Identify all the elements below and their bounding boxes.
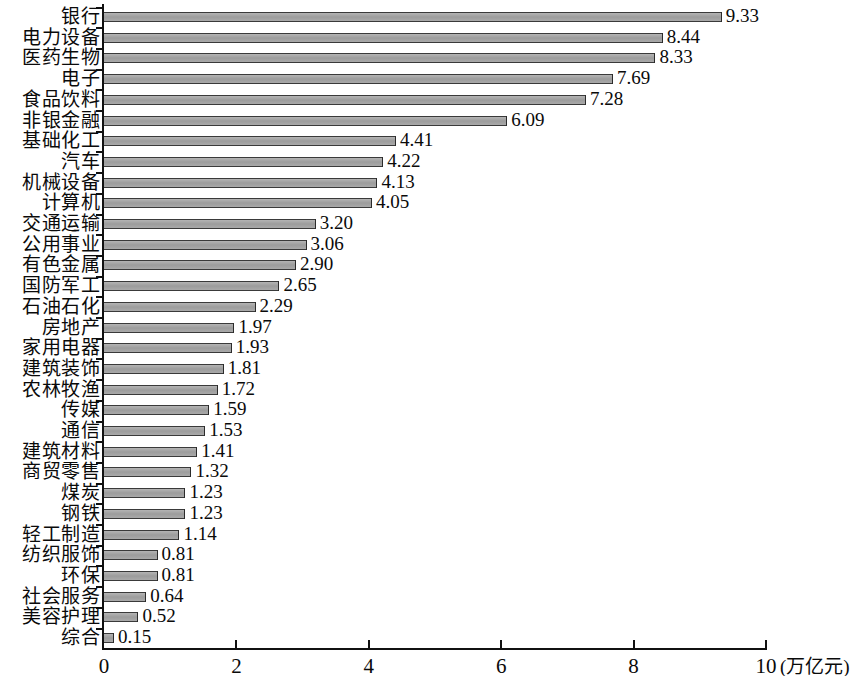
bar-row: 8.33 xyxy=(104,47,868,69)
bar-row: 7.28 xyxy=(104,89,868,111)
bar-value-label: 1.97 xyxy=(238,316,271,338)
bar-value-label: 0.52 xyxy=(142,605,175,627)
bar-value-label: 1.41 xyxy=(201,440,234,462)
bar xyxy=(104,592,146,602)
bar xyxy=(104,198,372,208)
bar-value-label: 3.20 xyxy=(320,212,353,234)
bar-row: 1.32 xyxy=(104,461,868,483)
bar-row: 4.05 xyxy=(104,192,868,214)
bar xyxy=(104,33,663,43)
category-label: 轻工制造 xyxy=(0,525,100,544)
bar xyxy=(104,240,307,250)
bar xyxy=(104,405,209,415)
bar xyxy=(104,385,218,395)
bar xyxy=(104,281,279,291)
bar-row: 0.15 xyxy=(104,627,868,649)
bar-value-label: 2.65 xyxy=(283,274,316,296)
bar xyxy=(104,74,613,84)
bar xyxy=(104,488,185,498)
category-label: 房地产 xyxy=(0,318,100,337)
bar xyxy=(104,260,296,270)
category-label: 电力设备 xyxy=(0,28,100,47)
bar xyxy=(104,95,586,105)
bar-value-label: 1.14 xyxy=(183,523,216,545)
bar-value-label: 0.81 xyxy=(162,543,195,565)
bar-row: 3.06 xyxy=(104,234,868,256)
bar xyxy=(104,364,224,374)
category-label: 机械设备 xyxy=(0,173,100,192)
x-axis-tick-label: 0 xyxy=(99,656,110,676)
x-axis-tick xyxy=(368,640,370,648)
category-label: 建筑材料 xyxy=(0,442,100,461)
category-label: 计算机 xyxy=(0,193,100,212)
category-label: 建筑装饰 xyxy=(0,359,100,378)
category-label: 银行 xyxy=(0,7,100,26)
category-label: 煤炭 xyxy=(0,483,100,502)
bar xyxy=(104,219,316,229)
bar-row: 1.97 xyxy=(104,317,868,339)
category-label: 石油石化 xyxy=(0,297,100,316)
bar-row: 1.23 xyxy=(104,503,868,525)
category-label: 商贸零售 xyxy=(0,462,100,481)
bar-value-label: 4.41 xyxy=(400,129,433,151)
bar-value-label: 0.81 xyxy=(162,564,195,586)
category-label: 纺织服饰 xyxy=(0,545,100,564)
bar-value-label: 3.06 xyxy=(311,233,344,255)
bar-row: 2.90 xyxy=(104,254,868,276)
bar-value-label: 9.33 xyxy=(726,5,759,27)
bar-chart: 银行9.33电力设备8.44医药生物8.33电子7.69食品饮料7.28非银金融… xyxy=(0,0,868,676)
bar-row: 1.14 xyxy=(104,524,868,546)
category-label: 食品饮料 xyxy=(0,90,100,109)
bar-row: 9.33 xyxy=(104,6,868,28)
bar-value-label: 1.72 xyxy=(222,378,255,400)
bar-value-label: 4.22 xyxy=(387,150,420,172)
bar xyxy=(104,571,158,581)
x-axis-unit-label: (万亿元) xyxy=(780,656,850,676)
category-label: 交通运输 xyxy=(0,214,100,233)
category-label: 钢铁 xyxy=(0,504,100,523)
bar-value-label: 1.81 xyxy=(228,357,261,379)
bar-value-label: 2.90 xyxy=(300,253,333,275)
bar-row: 4.41 xyxy=(104,130,868,152)
bar-row: 1.41 xyxy=(104,441,868,463)
bar xyxy=(104,157,383,167)
bar-value-label: 0.64 xyxy=(150,585,183,607)
bar-row: 8.44 xyxy=(104,27,868,49)
bar-row: 1.81 xyxy=(104,358,868,380)
bar-row: 3.20 xyxy=(104,213,868,235)
bar xyxy=(104,136,396,146)
category-label: 有色金属 xyxy=(0,255,100,274)
x-axis-tick-label: 4 xyxy=(364,656,375,676)
x-axis-tick-label: 10 xyxy=(756,656,777,676)
x-axis-tick-label: 8 xyxy=(628,656,639,676)
category-label: 家用电器 xyxy=(0,338,100,357)
bar-row: 0.81 xyxy=(104,565,868,587)
x-axis-tick xyxy=(633,640,635,648)
bar-row: 2.65 xyxy=(104,275,868,297)
category-label: 社会服务 xyxy=(0,587,100,606)
bar xyxy=(104,343,232,353)
bar xyxy=(104,530,179,540)
category-label: 综合 xyxy=(0,628,100,647)
bar-value-label: 6.09 xyxy=(511,109,544,131)
bar-row: 6.09 xyxy=(104,110,868,132)
bar-value-label: 8.44 xyxy=(667,26,700,48)
x-axis-tick xyxy=(235,640,237,648)
bar-row: 1.59 xyxy=(104,399,868,421)
category-label: 非银金融 xyxy=(0,111,100,130)
category-label: 传媒 xyxy=(0,400,100,419)
category-label: 美容护理 xyxy=(0,607,100,626)
x-axis-tick-label: 6 xyxy=(496,656,507,676)
x-axis-tick xyxy=(500,640,502,648)
category-label: 农林牧渔 xyxy=(0,380,100,399)
bar-row: 7.69 xyxy=(104,68,868,90)
category-label: 公用事业 xyxy=(0,235,100,254)
bar xyxy=(104,633,114,643)
x-axis-tick xyxy=(765,640,767,648)
bar-value-label: 0.15 xyxy=(118,626,151,648)
x-axis-tick-label: 2 xyxy=(231,656,242,676)
bar-row: 4.13 xyxy=(104,172,868,194)
bar-row: 1.23 xyxy=(104,482,868,504)
bar xyxy=(104,467,191,477)
category-label: 电子 xyxy=(0,69,100,88)
